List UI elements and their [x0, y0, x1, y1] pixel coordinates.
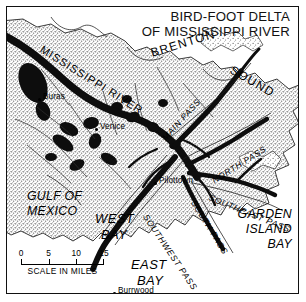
- map-figure: BIRD-FOOT DELTA OF MISSISSIPPI RIVER BRE…: [0, 0, 306, 302]
- map-title: BIRD-FOOT DELTA OF MISSISSIPPI RIVER: [142, 10, 290, 40]
- channel-main-pass-tip: [241, 49, 259, 71]
- scale-bar-tick-labels: 0 5 10 15: [21, 248, 104, 259]
- town-marker-pilottown: [154, 182, 157, 185]
- lake-14: [158, 99, 168, 107]
- map-frame: BIRD-FOOT DELTA OF MISSISSIPPI RIVER BRE…: [6, 6, 299, 294]
- scale-tick-label-2: 10: [72, 248, 81, 258]
- map-layers: [7, 17, 298, 269]
- scale-bar: 0 5 10 15 SCALE IN MILES: [21, 248, 104, 276]
- lake-13: [45, 153, 57, 161]
- scale-bar-caption: SCALE IN MILES: [21, 266, 104, 276]
- scale-tick-2: [76, 259, 77, 264]
- map-title-line-2: OF MISSISSIPPI RIVER: [142, 25, 290, 40]
- town-marker-buras: [38, 98, 41, 101]
- lake-9: [122, 95, 132, 103]
- town-marker-burrwood: [113, 292, 116, 294]
- scale-bar-rule: [21, 259, 104, 265]
- scale-tick-label-3: 15: [99, 248, 108, 258]
- town-marker-venice: [95, 128, 98, 131]
- map-title-line-1: BIRD-FOOT DELTA: [142, 10, 290, 25]
- scale-tick-label-1: 5: [46, 248, 51, 258]
- scale-tick-1: [49, 259, 50, 264]
- scale-tick-0: [21, 259, 22, 264]
- scale-tick-3: [103, 259, 104, 264]
- scale-tick-label-0: 0: [19, 248, 24, 258]
